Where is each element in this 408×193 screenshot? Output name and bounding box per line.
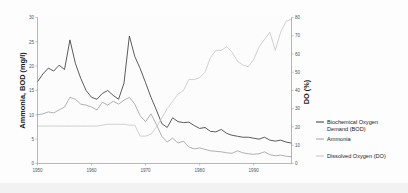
y-tick-label-right: 10 — [295, 143, 301, 148]
legend-label-0: Demand (BOD) — [327, 126, 366, 132]
y-axis-title-left: Ammonia, BOD (mg/l) — [18, 52, 27, 129]
legend-label-2: Dissolved Oxygen (DO) — [327, 153, 386, 159]
y-tick-label-left: 10 — [29, 113, 35, 118]
y-axis-title-right: DO (%) — [302, 79, 311, 104]
legend-item[interactable]: Ammonia — [316, 136, 352, 142]
legend-label-0: Biochemical Oxygen — [327, 119, 378, 125]
y-tick-label-left: 25 — [29, 40, 35, 45]
y-tick-label-left: 30 — [29, 15, 35, 20]
x-tick-label: 1960 — [86, 168, 97, 173]
y-tick-label-left: 0 — [31, 161, 34, 166]
line-chart: 0510152025300102030405060708019501960197… — [0, 0, 408, 193]
legend-item[interactable]: Biochemical OxygenDemand (BOD) — [316, 119, 378, 132]
y-tick-label-left: 5 — [31, 137, 34, 142]
y-tick-label-right: 80 — [295, 15, 301, 20]
legend-item[interactable]: Dissolved Oxygen (DO) — [316, 153, 386, 159]
chart-container: 0510152025300102030405060708019501960197… — [0, 0, 408, 193]
y-tick-label-right: 20 — [295, 125, 301, 130]
x-tick-label: 1950 — [32, 168, 43, 173]
x-tick-label: 1970 — [140, 168, 151, 173]
legend-label-1: Ammonia — [327, 136, 352, 142]
y-tick-label-right: 0 — [295, 161, 298, 166]
y-tick-label-right: 60 — [295, 52, 301, 57]
y-tick-label-right: 70 — [295, 33, 301, 38]
x-tick-label: 1990 — [249, 168, 260, 173]
y-tick-label-right: 40 — [295, 88, 301, 93]
y-tick-label-left: 20 — [29, 64, 35, 69]
x-tick-label: 1980 — [195, 168, 206, 173]
y-tick-label-right: 50 — [295, 70, 301, 75]
y-tick-label-right: 30 — [295, 106, 301, 111]
plot-area — [38, 18, 292, 164]
y-tick-label-left: 15 — [29, 88, 35, 93]
bottom-band — [0, 183, 408, 193]
